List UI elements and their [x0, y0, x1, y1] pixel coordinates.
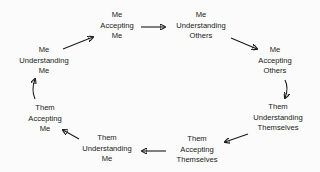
arrow-them-understanding-me-to-them-accepting-me — [63, 130, 79, 139]
arrow-me-understanding-others-to-me-accepting-others — [231, 38, 257, 49]
arrow-them-understanding-themselves-to-them-accepting-themselves — [225, 134, 248, 142]
node-them-understanding-me: Them Understanding Me — [82, 133, 131, 165]
node-them-accepting-me: Them Accepting Me — [28, 103, 61, 135]
node-line: Understanding — [82, 144, 131, 155]
node-line: Me — [28, 124, 61, 135]
node-line: Others — [258, 66, 291, 77]
node-line: Me — [176, 10, 225, 21]
node-line: Them — [253, 102, 302, 113]
arrow-them-accepting-me-to-me-understanding-me — [33, 79, 35, 99]
node-line: Them — [82, 133, 131, 144]
node-line: Understanding — [253, 113, 302, 124]
node-line: Me — [82, 154, 131, 165]
node-line: Me — [100, 10, 133, 21]
node-me-understanding-others: Me Understanding Others — [176, 10, 225, 42]
node-line: Themselves — [177, 155, 218, 166]
node-line: Accepting — [100, 21, 133, 32]
node-line: Me — [100, 31, 133, 42]
arrow-me-accepting-others-to-them-understanding-themselves — [285, 80, 287, 98]
node-line: Themselves — [253, 123, 302, 134]
node-line: Understanding — [19, 56, 68, 67]
node-line: Me — [19, 66, 68, 77]
node-line: Them — [28, 103, 61, 114]
node-me-accepting-me: Me Accepting Me — [100, 10, 133, 42]
node-line: Me — [19, 45, 68, 56]
node-line: Accepting — [258, 56, 291, 67]
node-line: Others — [176, 31, 225, 42]
node-line: Me — [258, 45, 291, 56]
node-line: Understanding — [176, 21, 225, 32]
node-line: Them — [177, 134, 218, 145]
node-me-understanding-me: Me Understanding Me — [19, 45, 68, 77]
node-me-accepting-others: Me Accepting Others — [258, 45, 291, 77]
cycle-arrows — [0, 0, 320, 172]
node-them-accepting-themselves: Them Accepting Themselves — [177, 134, 218, 166]
node-line: Accepting — [177, 145, 218, 156]
node-them-understanding-themselves: Them Understanding Themselves — [253, 102, 302, 134]
node-line: Accepting — [28, 114, 61, 125]
